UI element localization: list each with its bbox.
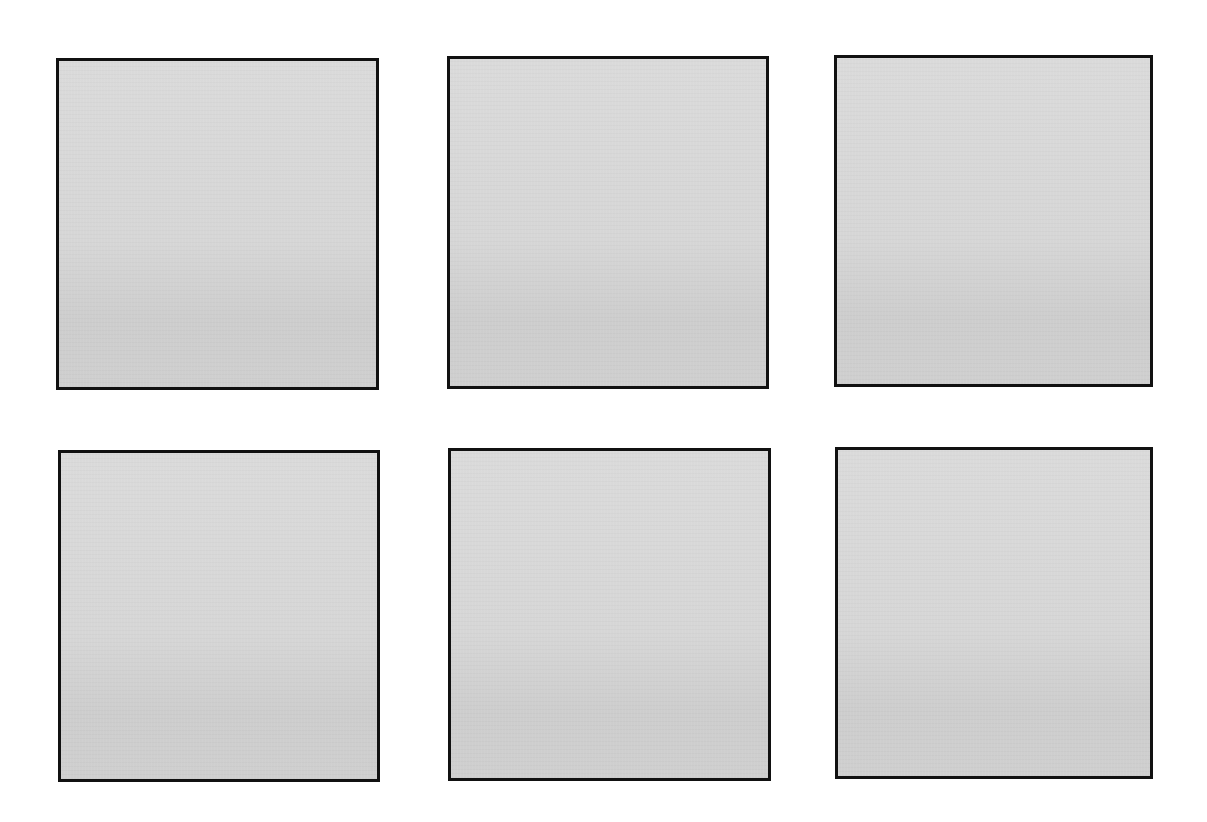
gray-panel-2 [447, 56, 769, 389]
gray-panel-4 [58, 450, 380, 782]
gray-panel-6 [835, 447, 1153, 779]
gray-panel-5 [448, 448, 771, 781]
gray-panel-3 [834, 55, 1153, 387]
gray-panel-1 [56, 58, 379, 390]
